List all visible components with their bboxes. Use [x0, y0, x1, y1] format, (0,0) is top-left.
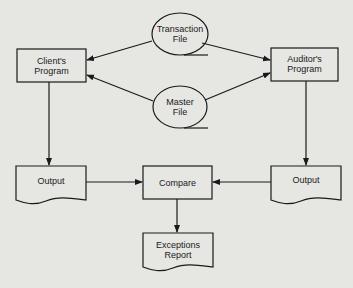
compare-label: Compare	[143, 166, 212, 199]
auditors-program-label: Auditor's Program	[271, 47, 338, 80]
transaction-file-label: Transaction File	[152, 14, 208, 54]
output-left-label: Output	[16, 166, 86, 196]
clients-program-label: Client's Program	[17, 49, 86, 82]
exceptions-report-label: Exceptions Report	[143, 235, 213, 265]
edge-transaction-to-client	[87, 41, 152, 60]
master-file-label: Master File	[153, 87, 207, 127]
edge-transaction-to-auditor	[202, 43, 270, 60]
output-right-label: Output	[271, 165, 341, 195]
edge-master-to-client	[87, 75, 153, 101]
edge-master-to-auditor	[205, 73, 270, 100]
